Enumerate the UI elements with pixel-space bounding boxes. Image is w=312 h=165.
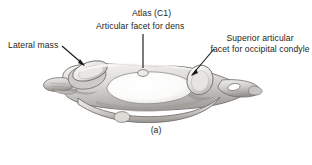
- label-superior-line1: Superior articular: [226, 33, 293, 43]
- label-superior-line2: facet for occipital condyle: [210, 44, 309, 54]
- right-transverse-tip: [249, 86, 262, 95]
- label-atlas-c1: Atlas (C1): [132, 8, 171, 19]
- label-lateral-mass: Lateral mass: [8, 40, 58, 51]
- vertebra-illustration: [44, 57, 263, 123]
- figure-caption: (a): [0, 125, 312, 135]
- label-superior-articular-facet: Superior articular facet for occipital c…: [208, 33, 312, 54]
- articular-facet-for-dens: [138, 70, 149, 77]
- label-articular-facet-for-dens: Articular facet for dens: [96, 21, 184, 32]
- vertebral-foramen: [107, 72, 193, 104]
- anterior-tubercle: [114, 112, 130, 123]
